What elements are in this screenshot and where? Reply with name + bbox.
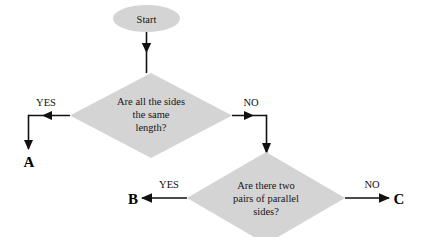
arrow-head-start-to-decision1	[142, 43, 151, 53]
arrow-head-terminal-a	[24, 140, 33, 150]
decision2-label-line1: Are there two	[237, 180, 295, 191]
start-node-label: Start	[137, 14, 157, 25]
arrow-head-terminal-b	[141, 193, 152, 203]
decision2-label-line2: pairs of parallel	[233, 193, 299, 204]
decision1-label-line2: the same	[132, 109, 169, 120]
decision1-yes-label: YES	[36, 97, 56, 108]
terminal-b-label: B	[128, 191, 138, 207]
terminal-a-label: A	[24, 154, 35, 170]
arrow-head-decision1-no	[244, 111, 254, 120]
decision1-label-line3: length?	[136, 122, 167, 133]
arrow-head-terminal-c	[379, 193, 390, 203]
decision1-label-line1: Are all the sides	[117, 96, 185, 107]
decision2-label-line3: sides?	[253, 206, 279, 217]
decision2-yes-label: YES	[159, 179, 179, 190]
arrow-head-decision1-yes	[42, 111, 52, 120]
flowchart-svg: Start Are all the sides the same length?…	[0, 0, 421, 237]
decision2-no-label: NO	[364, 179, 380, 190]
decision1-no-label: NO	[243, 97, 259, 108]
terminal-c-label: C	[394, 191, 405, 207]
flowchart-canvas: Start Are all the sides the same length?…	[0, 0, 421, 237]
